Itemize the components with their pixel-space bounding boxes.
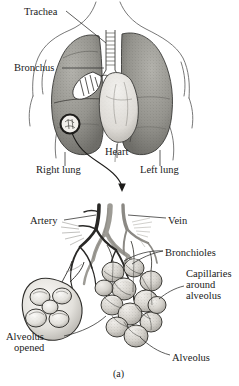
magnified-region-marker bbox=[61, 115, 80, 134]
label-bronchus: Bronchus bbox=[14, 62, 54, 74]
label-artery: Artery bbox=[30, 215, 57, 227]
label-alveolus: Alveolus bbox=[172, 352, 210, 364]
respiratory-system-figure bbox=[0, 0, 239, 386]
label-capillaries-alveolus: alveolus bbox=[186, 290, 221, 302]
figure-caption: (a) bbox=[113, 368, 124, 379]
label-heart: Heart bbox=[105, 146, 128, 158]
label-capillaries: Capillaries bbox=[186, 268, 232, 280]
label-trachea: Trachea bbox=[24, 6, 57, 18]
label-right-lung: Right lung bbox=[36, 164, 81, 176]
label-left-lung: Left lung bbox=[140, 164, 179, 176]
label-vein: Vein bbox=[168, 215, 187, 227]
label-alveolus-opened-line2: opened bbox=[14, 342, 44, 354]
label-capillaries-around: around bbox=[186, 279, 215, 291]
label-bronchioles: Bronchioles bbox=[165, 247, 216, 259]
label-alveolus-opened-line1: Alveolus bbox=[6, 331, 44, 343]
